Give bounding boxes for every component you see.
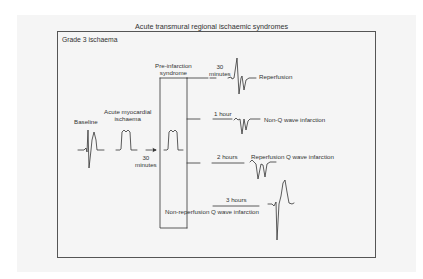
non-q-ecg-trace — [234, 118, 260, 134]
reperfusion-q-ecg-trace — [250, 160, 276, 179]
pre-infarction-bracket — [160, 78, 187, 228]
baseline-ecg-trace — [78, 130, 104, 168]
diagram-graphics — [0, 0, 423, 279]
pre-infarction-ecg-trace — [164, 130, 183, 150]
reperfusion-ecg-trace — [228, 58, 256, 94]
ischaemia-ecg-trace — [116, 130, 137, 150]
non-reperfusion-q-ecg-trace — [268, 180, 294, 240]
